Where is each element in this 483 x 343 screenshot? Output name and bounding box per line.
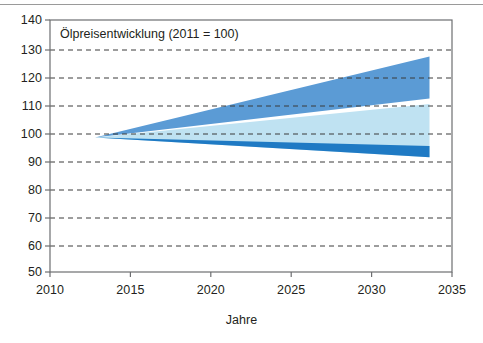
x-tick-label-2015: 2015	[108, 283, 152, 297]
y-tick-label-130: 130	[8, 43, 42, 57]
y-tick-label-80: 80	[8, 183, 42, 197]
x-tick-label-2025: 2025	[269, 283, 313, 297]
oil-price-fan-chart	[0, 0, 483, 343]
y-tick-label-50: 50	[8, 265, 42, 279]
y-tick-label-60: 60	[8, 239, 42, 253]
figure: Ölpreisentwicklung (2011 = 100) 140 130 …	[0, 0, 483, 343]
x-axis-title: Jahre	[0, 313, 483, 327]
y-tick-label-110: 110	[8, 99, 42, 113]
y-tick-label-70: 70	[8, 211, 42, 225]
y-tick-label-90: 90	[8, 155, 42, 169]
x-tick-label-2035: 2035	[430, 283, 474, 297]
plot-title: Ölpreisentwicklung (2011 = 100)	[60, 27, 239, 41]
y-tick-marks	[45, 20, 50, 272]
x-tick-label-2020: 2020	[189, 283, 233, 297]
y-tick-label-140: 140	[8, 13, 42, 27]
x-tick-label-2030: 2030	[350, 283, 394, 297]
y-tick-label-120: 120	[8, 71, 42, 85]
x-tick-label-2010: 2010	[28, 283, 72, 297]
x-tick-marks	[50, 272, 452, 277]
y-tick-label-100: 100	[8, 127, 42, 141]
